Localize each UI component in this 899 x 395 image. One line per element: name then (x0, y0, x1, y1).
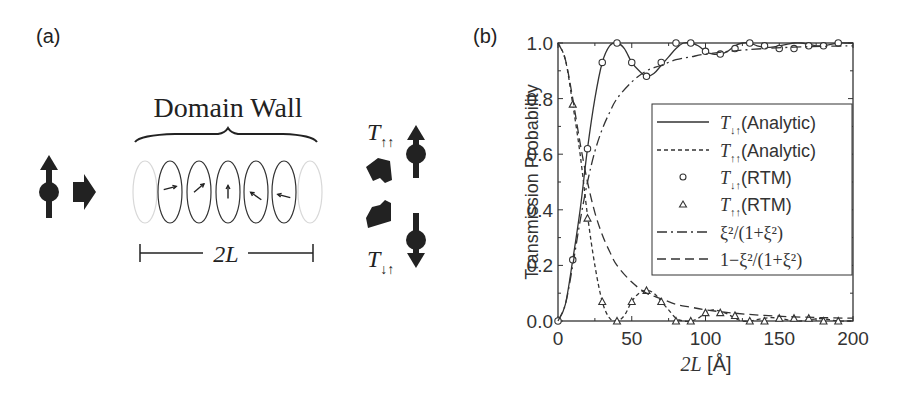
data-point-circle (688, 40, 694, 46)
data-point-circle (747, 40, 753, 46)
data-point-circle (599, 59, 605, 65)
data-point-circle (643, 73, 649, 79)
panel-a: (a) Domain Wall 2L T↑↑ (36, 25, 426, 277)
width-label: 2L (213, 241, 238, 267)
data-point-triangle (584, 215, 591, 222)
legend-label: ξ²/(1+ξ²) (720, 223, 783, 244)
magnetization-arrow-icon (194, 184, 204, 192)
panel-a-label: (a) (36, 25, 60, 47)
magnetization-arrow-icon (251, 192, 262, 199)
data-point-triangle (599, 298, 606, 305)
data-point-circle (791, 45, 797, 51)
x-tick-label: 0 (553, 328, 564, 349)
faded-spin-ellipse-right (298, 161, 322, 223)
data-point-circle (673, 40, 679, 46)
spin-cell (272, 161, 296, 223)
transmitted-direction-arrow-icon (366, 200, 391, 228)
brace-icon (135, 128, 317, 142)
t-upup-label: T↑↑ (367, 119, 394, 150)
panel-b-label: (b) (473, 25, 497, 47)
x-tick-label: 50 (621, 328, 642, 349)
y-tick-label: 1.0 (527, 33, 553, 54)
data-point-circle (584, 145, 590, 151)
outgoing-spin-down-electron-icon (406, 213, 426, 268)
data-point-triangle (791, 315, 798, 322)
x-tick-label: 150 (763, 328, 795, 349)
data-point-circle (702, 48, 708, 54)
outgoing-spin-up-electron-icon (406, 125, 426, 178)
t-downup-label: T↓↑ (367, 246, 394, 277)
figure: (a) Domain Wall 2L T↑↑ (0, 0, 899, 395)
y-axis-label: Transmission Probability (522, 84, 542, 279)
reflected-direction-arrow-icon (366, 158, 392, 183)
x-axis-label: 2L [Å] (680, 353, 731, 375)
x-tick-labels: 050100150200 (553, 328, 869, 349)
panel-b: (b) 0.00.20.40.60.81.0 050100150200 Tran… (473, 25, 869, 375)
faded-spin-ellipse-left (133, 161, 157, 223)
data-point-circle (835, 40, 841, 46)
spin-cell (158, 161, 182, 223)
x-tick-label: 100 (690, 328, 722, 349)
domain-wall-label: Domain Wall (154, 92, 303, 123)
incoming-direction-arrow-icon (73, 174, 96, 210)
domain-wall-spins (158, 161, 296, 223)
spin-cell (216, 161, 240, 223)
x-tick-label: 200 (837, 328, 869, 349)
y-tick-label: 0.0 (527, 311, 553, 332)
data-point-circle (806, 43, 812, 49)
data-point-circle (614, 40, 620, 46)
spin-cell (187, 161, 211, 223)
data-point-circle (776, 45, 782, 51)
incoming-spin-up-electron-icon (39, 155, 59, 218)
legend: T↓↑(Analytic)T↑↑(Analytic)T↓↑(RTM)T↑↑(RT… (652, 104, 852, 275)
data-point-circle (629, 59, 635, 65)
spin-cell (244, 161, 268, 223)
legend-label: 1−ξ²/(1+ξ²) (720, 250, 802, 271)
